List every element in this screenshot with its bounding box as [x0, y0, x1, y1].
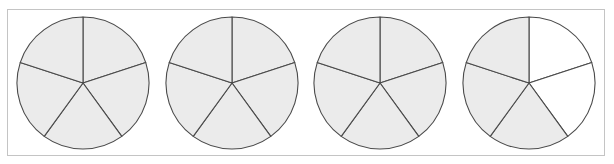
fraction-circles-diagram [0, 0, 614, 164]
fraction-circle [17, 17, 149, 149]
fraction-circle [166, 17, 298, 149]
fraction-circle [463, 17, 595, 149]
fraction-circle [314, 17, 446, 149]
